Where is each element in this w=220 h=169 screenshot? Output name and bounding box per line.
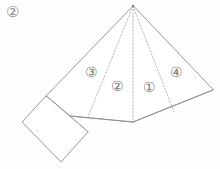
sector-label-1: ① [143, 81, 156, 95]
sector-label-3: ③ [85, 66, 98, 80]
fan-outline-path [46, 6, 213, 122]
sector-label-2: ② [111, 80, 124, 94]
figure-number-label: ② [6, 5, 19, 20]
apex-vertex-marker [132, 5, 134, 7]
figure-canvas: ② ③ ② ① ④ [0, 0, 220, 169]
sector-label-4: ④ [170, 66, 183, 80]
